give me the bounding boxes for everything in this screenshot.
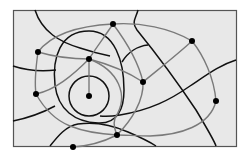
node-a xyxy=(35,49,41,55)
node-b xyxy=(110,21,116,27)
node-i xyxy=(114,132,120,138)
node-d xyxy=(189,38,195,44)
node-h xyxy=(213,98,219,104)
node-g xyxy=(86,93,92,99)
region-network-diagram xyxy=(0,0,248,167)
node-e xyxy=(140,79,146,85)
node-j xyxy=(70,144,76,150)
node-f xyxy=(33,91,39,97)
node-c xyxy=(86,56,92,62)
